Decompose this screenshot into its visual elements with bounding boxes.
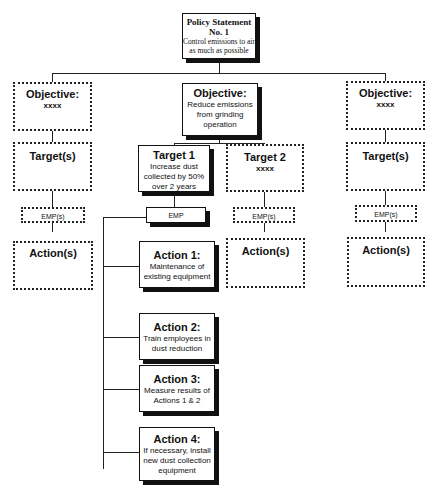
objective-left-box: Objective: xxxx xyxy=(13,82,92,131)
target1-label: Target 1 xyxy=(139,149,209,162)
connector-objectives-bar xyxy=(52,73,386,74)
action1-label: Action 1: xyxy=(140,249,214,262)
action4-box: Action 4: If necessary, install new dust… xyxy=(139,427,215,481)
action-target2-box: Action(s) xyxy=(226,238,305,288)
objective-right-box: Objective: xxxx xyxy=(346,81,425,130)
target2-label: Target 2 xyxy=(228,151,302,164)
emp-target2-box: EMP(s) xyxy=(233,207,295,223)
connector-action2 xyxy=(103,337,139,338)
connector-emp-left xyxy=(103,217,147,218)
objective-center-text: Reduce emissions from grinding operation xyxy=(183,100,257,130)
objective-left-text: xxxx xyxy=(15,101,90,111)
emp-right-label: EMP(s) xyxy=(357,210,415,219)
connector-right-obj-target xyxy=(385,130,386,142)
connector-actions-spine xyxy=(103,217,104,469)
target-right-label: Target(s) xyxy=(348,150,423,163)
target-left-box: Target(s) xyxy=(13,142,92,191)
policy-statement-box: Policy Statement No. 1 Control emissions… xyxy=(182,13,256,59)
policy-text: Control emissions to air as much as poss… xyxy=(183,37,255,55)
policy-title: Policy Statement xyxy=(183,17,255,27)
connector-right-emp-action xyxy=(385,222,386,232)
emp-right-box: EMP(s) xyxy=(355,205,417,222)
emp-left-box: EMP(s) xyxy=(21,207,85,223)
action4-text: If necessary, install new dust collectio… xyxy=(140,446,214,476)
target2-text: xxxx xyxy=(228,164,302,174)
connector-policy-down xyxy=(219,60,220,74)
action-right-label: Action(s) xyxy=(349,244,423,257)
connector-action4 xyxy=(103,452,139,453)
objective-center-box: Objective: Reduce emissions from grindin… xyxy=(182,83,258,136)
action3-box: Action 3: Measure results of Actions 1 &… xyxy=(139,365,215,412)
policy-number: No. 1 xyxy=(183,27,255,37)
action1-box: Action 1: Maintenance of existing equipm… xyxy=(139,241,215,288)
action1-text: Maintenance of existing equipment xyxy=(140,262,214,282)
connector-left-target-emp xyxy=(52,190,53,207)
action-left-label: Action(s) xyxy=(15,247,91,260)
action2-label: Action 2: xyxy=(140,321,214,334)
emp-target2-label: EMP(s) xyxy=(235,212,293,221)
action3-text: Measure results of Actions 1 & 2 xyxy=(140,386,214,406)
objective-center-label: Objective: xyxy=(183,87,257,100)
target1-text: Increase dust collected by 50% over 2 ye… xyxy=(139,162,209,192)
action-left-box: Action(s) xyxy=(13,241,93,290)
target-right-box: Target(s) xyxy=(346,142,425,191)
action2-text: Train employees in dust reduction xyxy=(140,334,214,354)
objective-left-label: Objective: xyxy=(15,88,90,101)
emp-center-box: EMP xyxy=(146,207,206,223)
target-left-label: Target(s) xyxy=(15,150,90,163)
connector-left-obj-target xyxy=(52,130,53,142)
action-right-box: Action(s) xyxy=(347,237,425,287)
emp-center-label: EMP xyxy=(147,211,205,220)
connector-target1-emp xyxy=(174,192,175,207)
action2-box: Action 2: Train employees in dust reduct… xyxy=(139,313,215,360)
emp-left-label: EMP(s) xyxy=(23,212,83,221)
connector-target2-emp xyxy=(264,190,265,207)
action-target2-label: Action(s) xyxy=(228,245,303,258)
connector-target2-emp-action xyxy=(264,222,265,232)
connector-action1 xyxy=(103,266,139,267)
objective-right-label: Objective: xyxy=(348,87,423,100)
action3-label: Action 3: xyxy=(140,373,214,386)
connector-action3 xyxy=(103,389,139,390)
objective-right-text: xxxx xyxy=(348,100,423,110)
connector-left-emp-action xyxy=(52,222,53,232)
target1-box: Target 1 Increase dust collected by 50% … xyxy=(138,145,210,192)
action4-label: Action 4: xyxy=(140,433,214,446)
target2-box: Target 2 xxxx xyxy=(226,144,304,192)
